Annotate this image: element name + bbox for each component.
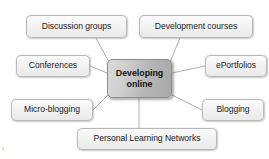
node-micro-blogging[interactable]: Micro-blogging xyxy=(11,99,93,121)
corner-artifact-mark: ‖ xyxy=(2,145,6,154)
node-conferences[interactable]: Conferences xyxy=(16,55,90,77)
connector-eportfolios xyxy=(172,66,205,73)
node-blogging[interactable]: Blogging xyxy=(202,99,264,121)
center-label: Developing online xyxy=(116,68,163,89)
node-center-developing-online[interactable]: Developing online xyxy=(107,59,172,98)
node-discussion-groups[interactable]: Discussion groups xyxy=(26,15,127,38)
connector-micro-blogging xyxy=(93,94,109,110)
node-eportfolios[interactable]: ePortfolios xyxy=(205,55,267,77)
connector-conferences xyxy=(90,66,107,73)
connector-discussion-groups xyxy=(96,38,109,62)
node-label-personal-learning-networks: Personal Learning Networks xyxy=(94,134,201,144)
connector-development-courses xyxy=(170,38,180,62)
node-label-eportfolios: ePortfolios xyxy=(216,61,256,71)
node-label-conferences: Conferences xyxy=(29,61,77,71)
radial-diagram: Discussion groups Development courses Co… xyxy=(0,0,269,159)
node-label-blogging: Blogging xyxy=(216,105,249,115)
connector-blogging xyxy=(170,94,202,110)
node-label-micro-blogging: Micro-blogging xyxy=(24,105,80,115)
node-personal-learning-networks[interactable]: Personal Learning Networks xyxy=(77,128,217,150)
center-label-line2: online xyxy=(127,79,153,89)
node-label-development-courses: Development courses xyxy=(155,22,237,32)
node-development-courses[interactable]: Development courses xyxy=(139,15,253,38)
center-label-line1: Developing xyxy=(116,68,163,78)
node-label-discussion-groups: Discussion groups xyxy=(42,22,112,32)
